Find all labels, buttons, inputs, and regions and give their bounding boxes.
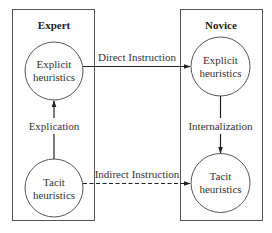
edge-label: Direct Instruction (98, 51, 176, 63)
node-text-line1: Tacit (210, 170, 232, 182)
node-text-line2: heuristics (33, 71, 75, 83)
node-expert-tacit: Tacit heuristics (25, 159, 83, 217)
edge-internalization: Internalization (188, 96, 253, 153)
node-expert-explicit: Explicit heuristics (25, 42, 83, 100)
edge-label: Internalization (188, 120, 253, 132)
edge-direct-instruction: Direct Instruction (83, 51, 190, 67)
node-text-line2: heuristics (199, 67, 241, 79)
node-text-line2: heuristics (199, 183, 241, 195)
edge-label: Indirect Instruction (95, 168, 180, 180)
node-text-line1: Explicit (203, 54, 238, 66)
expert-label: Expert (38, 19, 71, 31)
edge-label: Explication (29, 120, 80, 132)
node-text-line1: Explicit (37, 58, 72, 70)
node-text-line2: heuristics (33, 189, 75, 201)
edge-indirect-instruction: Indirect Instruction (83, 168, 190, 184)
node-novice-tacit: Tacit heuristics (191, 154, 250, 213)
novice-label: Novice (205, 19, 237, 31)
node-text-line1: Tacit (43, 176, 65, 188)
edge-explication: Explication (29, 101, 80, 159)
node-novice-explicit: Explicit heuristics (191, 37, 250, 96)
heuristics-transfer-diagram: Expert Novice Explicit heuristics Tacit … (0, 0, 272, 233)
